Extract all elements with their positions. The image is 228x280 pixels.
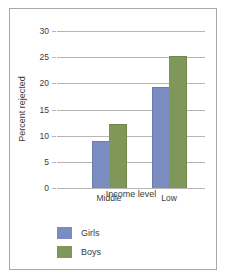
y-tick-label: 5 — [44, 158, 49, 167]
legend-swatch-boys — [57, 246, 72, 258]
bar-boys-low — [169, 56, 187, 188]
bar-group — [152, 31, 186, 188]
y-tick-label: 0 — [44, 184, 49, 193]
legend-item-boys[interactable]: Boys — [57, 246, 101, 258]
tick-mark — [52, 188, 56, 189]
tick-mark — [52, 57, 56, 58]
y-tick-label: 25 — [40, 53, 49, 62]
y-tick-label: 15 — [40, 105, 49, 114]
bar-girls-middle — [92, 141, 110, 188]
legend-swatch-girls — [57, 227, 72, 239]
legend-label: Boys — [81, 247, 101, 257]
chart-frame: Percent rejected 051015202530 MiddleLow … — [9, 8, 217, 270]
plot-area: 051015202530 MiddleLow — [57, 31, 205, 188]
legend-item-girls[interactable]: Girls — [57, 227, 101, 239]
tick-mark — [52, 31, 56, 32]
bar-girls-low — [152, 87, 170, 188]
tick-mark — [52, 83, 56, 84]
y-tick-label: 10 — [40, 131, 49, 140]
y-tick-label: 30 — [40, 27, 49, 36]
bar-boys-middle — [109, 124, 127, 188]
tick-mark — [52, 136, 56, 137]
y-axis-title: Percent rejected — [17, 76, 27, 142]
y-tick-label: 20 — [40, 79, 49, 88]
tick-mark — [52, 110, 56, 111]
bar-group — [92, 31, 126, 188]
tick-mark — [52, 162, 56, 163]
x-axis-title: Income level — [57, 189, 205, 199]
chart-legend: GirlsBoys — [57, 227, 101, 265]
legend-label: Girls — [81, 228, 100, 238]
